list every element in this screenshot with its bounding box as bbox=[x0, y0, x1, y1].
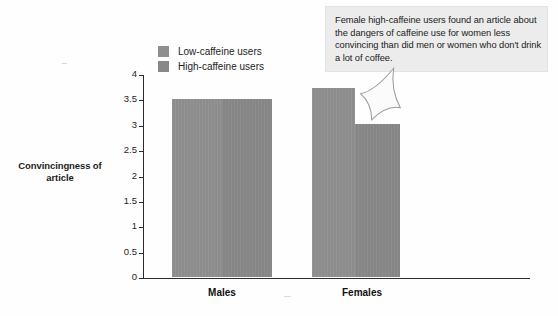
y-tick-label: 3.5 bbox=[124, 93, 137, 104]
y-tick-label: 4 bbox=[132, 68, 137, 79]
legend-label-high-caffeine: High-caffeine users bbox=[178, 61, 264, 72]
legend-swatch-icon bbox=[158, 46, 169, 57]
y-tick-label: 0 bbox=[132, 271, 137, 282]
y-tick-label: 3 bbox=[132, 119, 137, 130]
chart-figure: Convincingness of article Low-caffeine u… bbox=[0, 0, 558, 316]
bar-males-high-caffeine bbox=[222, 99, 272, 277]
legend-item-low-caffeine: Low-caffeine users bbox=[158, 44, 264, 59]
annotation-callout-box: Female high-caffeine users found an arti… bbox=[325, 6, 548, 72]
scan-speck bbox=[284, 296, 291, 297]
bar-females-low-caffeine bbox=[312, 88, 355, 277]
y-axis-title: Convincingness of article bbox=[8, 160, 112, 184]
legend-label-low-caffeine: Low-caffeine users bbox=[178, 46, 262, 57]
y-axis-title-line-2: article bbox=[8, 172, 112, 184]
y-axis-line bbox=[143, 75, 144, 279]
annotation-arrow-icon bbox=[355, 66, 415, 128]
scan-speck bbox=[62, 63, 67, 64]
annotation-callout-text: Female high-caffeine users found an arti… bbox=[335, 14, 542, 64]
bar-males-low-caffeine bbox=[172, 99, 222, 277]
legend-item-high-caffeine: High-caffeine users bbox=[158, 59, 264, 74]
chart-legend: Low-caffeine users High-caffeine users bbox=[158, 44, 264, 74]
bar-females-high-caffeine bbox=[355, 124, 400, 277]
y-tick-label: 1.5 bbox=[124, 195, 137, 206]
x-category-label-females: Females bbox=[326, 287, 398, 298]
plot-area: 4 3.5 3 2.5 2 1.5 1 0.5 bbox=[143, 75, 530, 278]
x-axis-line bbox=[143, 278, 530, 279]
y-tick-label: 2.5 bbox=[124, 144, 137, 155]
y-axis-title-line-1: Convincingness of bbox=[8, 160, 112, 172]
y-tick-label: 1 bbox=[132, 220, 137, 231]
legend-swatch-icon bbox=[158, 61, 169, 72]
x-category-label-males: Males bbox=[192, 287, 252, 298]
y-tick-label: 0.5 bbox=[124, 246, 137, 257]
y-tick-label: 2 bbox=[132, 170, 137, 181]
